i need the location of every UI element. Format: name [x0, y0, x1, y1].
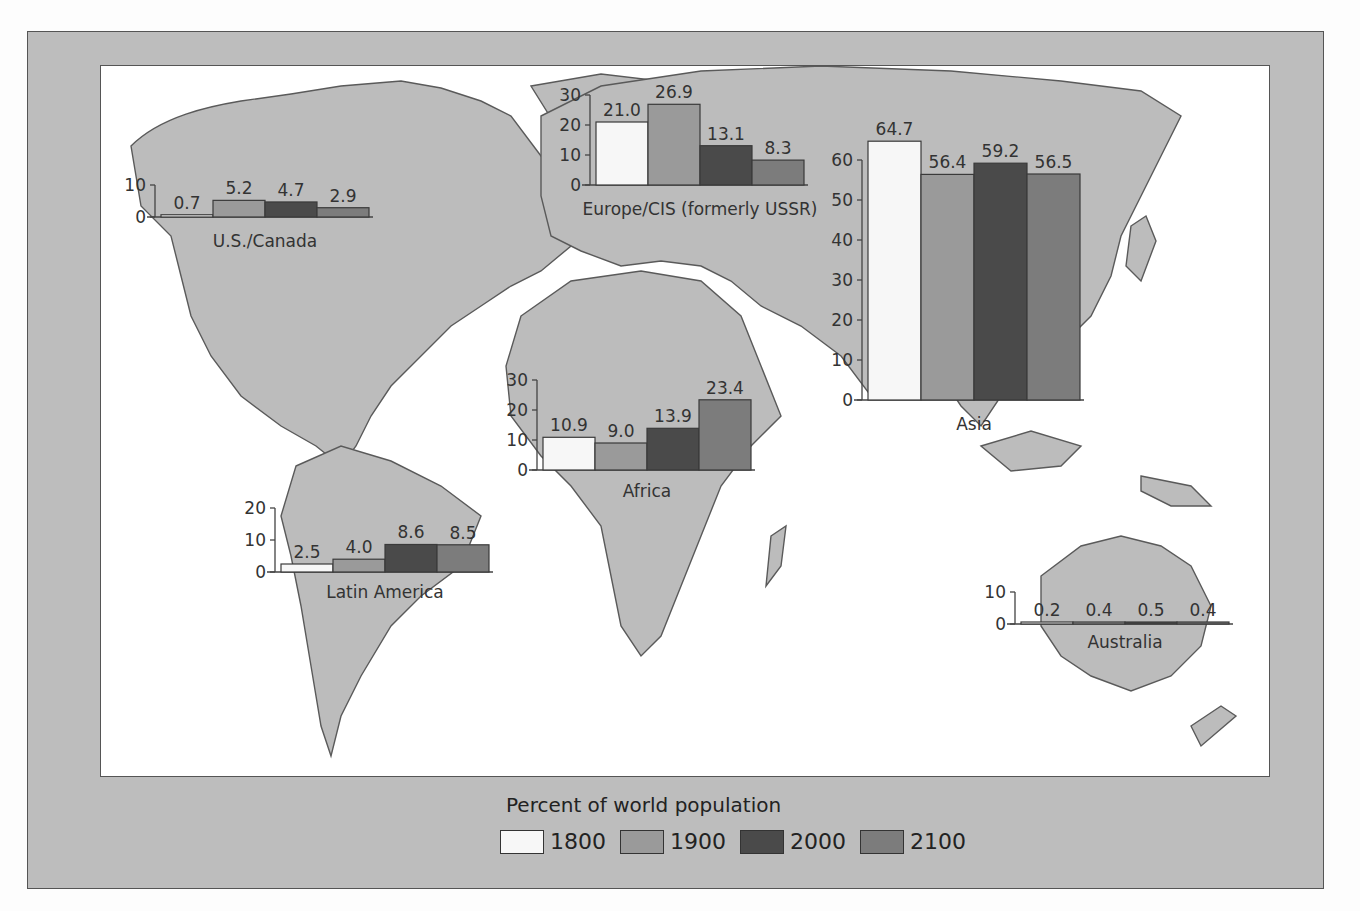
legend: Percent of world population 1800 1900 20…	[500, 793, 1000, 854]
bar-1900	[595, 443, 647, 470]
y-tick-label: 0	[135, 207, 146, 227]
bar-2000	[265, 202, 317, 217]
y-tick-label: 30	[506, 370, 528, 390]
legend-label-1800: 1800	[550, 829, 606, 854]
y-tick-label: 10	[124, 175, 146, 195]
bar-1900	[1073, 622, 1125, 624]
legend-title: Percent of world population	[506, 793, 1000, 817]
bar-1900	[213, 200, 265, 217]
legend-label-1900: 1900	[670, 829, 726, 854]
bar-value-label: 13.1	[707, 124, 745, 144]
bar-1800	[281, 564, 333, 572]
bar-value-label: 4.7	[277, 180, 304, 200]
y-tick-label: 20	[831, 310, 853, 330]
legend-swatch-2100	[860, 830, 904, 854]
bar-value-label: 21.0	[603, 100, 641, 120]
y-tick-label: 30	[559, 85, 581, 105]
bar-2100	[1177, 622, 1229, 624]
y-tick-label: 0	[570, 175, 581, 195]
bar-2000	[647, 428, 699, 470]
legend-swatch-1900	[620, 830, 664, 854]
bar-value-label: 2.5	[293, 542, 320, 562]
bar-value-label: 10.9	[550, 415, 588, 435]
region-label: Europe/CIS (formerly USSR)	[583, 199, 818, 219]
legend-swatch-2000	[740, 830, 784, 854]
legend-item-2000: 2000	[740, 829, 846, 854]
bar-value-label: 56.5	[1035, 152, 1073, 172]
madagascar-shape	[766, 526, 786, 586]
chart-us-canada: 0100.75.24.72.9U.S./Canada	[110, 175, 370, 259]
bar-2100	[1027, 174, 1080, 400]
bar-chart-australia: 0100.20.40.50.4Australia	[970, 580, 1250, 655]
y-tick-label: 30	[831, 270, 853, 290]
bar-chart-europe-cis: 010203021.026.913.18.3Europe/CIS (former…	[540, 75, 820, 225]
bar-chart-us-canada: 0100.75.24.72.9U.S./Canada	[110, 175, 370, 255]
y-tick-label: 50	[831, 190, 853, 210]
y-tick-label: 0	[995, 614, 1006, 634]
bar-chart-latin-america: 010202.54.08.68.5Latin America	[230, 495, 510, 605]
y-tick-label: 10	[984, 582, 1006, 602]
bar-value-label: 0.5	[1137, 600, 1164, 620]
y-tick-label: 40	[831, 230, 853, 250]
bar-value-label: 0.4	[1189, 600, 1216, 620]
legend-item-1900: 1900	[620, 829, 726, 854]
bar-value-label: 13.9	[654, 406, 692, 426]
y-tick-label: 20	[559, 115, 581, 135]
bar-1800	[596, 122, 648, 185]
bar-1800	[543, 437, 595, 470]
bar-1900	[921, 174, 974, 400]
bar-value-label: 0.4	[1085, 600, 1112, 620]
region-label: Latin America	[326, 582, 444, 602]
bar-value-label: 0.7	[173, 193, 200, 213]
bar-2000	[700, 146, 752, 185]
y-tick-label: 0	[255, 562, 266, 582]
legend-items: 1800 1900 2000 2100	[500, 829, 1000, 854]
region-label: Australia	[1087, 632, 1162, 652]
bar-2100	[699, 400, 751, 470]
bar-value-label: 5.2	[225, 178, 252, 198]
y-tick-label: 20	[244, 498, 266, 518]
legend-item-2100: 2100	[860, 829, 966, 854]
bar-value-label: 23.4	[706, 378, 744, 398]
bar-2100	[752, 160, 804, 185]
bar-1800	[868, 141, 921, 400]
bar-chart-asia: 010203040506064.756.459.256.5Asia	[820, 175, 1090, 440]
legend-label-2000: 2000	[790, 829, 846, 854]
bar-value-label: 26.9	[655, 82, 693, 102]
bar-value-label: 56.4	[929, 152, 967, 172]
region-label: Africa	[623, 481, 672, 501]
bar-2000	[974, 163, 1027, 400]
region-label: U.S./Canada	[213, 231, 317, 251]
bar-1900	[648, 104, 700, 185]
bar-1800	[1021, 622, 1073, 624]
chart-latin-america: 010202.54.08.68.5Latin America	[230, 495, 510, 609]
region-label: Asia	[956, 414, 992, 434]
bar-2100	[437, 545, 489, 572]
bar-value-label: 2.9	[329, 186, 356, 206]
bar-value-label: 8.6	[397, 522, 424, 542]
legend-item-1800: 1800	[500, 829, 606, 854]
bar-2100	[317, 208, 369, 217]
bar-1900	[333, 559, 385, 572]
y-tick-label: 10	[831, 350, 853, 370]
bar-value-label: 0.2	[1033, 600, 1060, 620]
chart-europe-cis: 010203021.026.913.18.3Europe/CIS (former…	[540, 75, 820, 229]
bar-value-label: 8.3	[764, 138, 791, 158]
y-tick-label: 10	[244, 530, 266, 550]
legend-label-2100: 2100	[910, 829, 966, 854]
y-tick-label: 10	[559, 145, 581, 165]
y-tick-label: 0	[842, 390, 853, 410]
bar-2000	[1125, 622, 1177, 624]
chart-australia: 0100.20.40.50.4Australia	[970, 580, 1250, 659]
japan-shape	[1126, 216, 1156, 281]
bar-value-label: 4.0	[345, 537, 372, 557]
bar-value-label: 59.2	[982, 141, 1020, 161]
chart-africa: 010203010.99.013.923.4Africa	[490, 365, 760, 509]
new-zealand-shape	[1191, 706, 1236, 746]
bar-chart-africa: 010203010.99.013.923.4Africa	[490, 365, 760, 505]
chart-asia: 010203040506064.756.459.256.5Asia	[820, 175, 1090, 444]
bar-value-label: 9.0	[607, 421, 634, 441]
y-tick-label: 20	[506, 400, 528, 420]
y-tick-label: 60	[831, 150, 853, 170]
y-tick-label: 10	[506, 430, 528, 450]
